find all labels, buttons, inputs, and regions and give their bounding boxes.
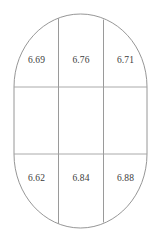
cell-top-left-value: 6.69 [17, 56, 57, 66]
cell-bottom-right-value: 6.88 [106, 174, 146, 184]
figure-canvas: 6.69 6.76 6.71 6.62 6.84 6.88 [0, 0, 160, 241]
oval-grid-diagram [0, 0, 160, 241]
oval-outline [14, 14, 147, 228]
cell-top-right-value: 6.71 [106, 56, 146, 66]
cell-top-center-value: 6.76 [61, 56, 101, 66]
cell-bottom-left-value: 6.62 [17, 174, 57, 184]
cell-bottom-center-value: 6.84 [61, 174, 101, 184]
